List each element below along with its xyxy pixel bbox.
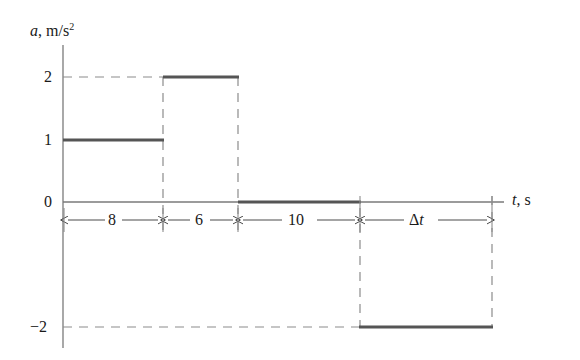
x-axis-units: , s bbox=[516, 191, 530, 208]
dimension-label-delta-t: Δt bbox=[409, 212, 424, 228]
acceleration-time-figure: a, m/s2 t, s 2 1 0 −2 8 6 10 Δt bbox=[0, 0, 580, 360]
y-axis-title: a, m/s2 bbox=[30, 22, 74, 39]
y-tick-label-2: 2 bbox=[44, 69, 52, 85]
y-axis-units: , m/s bbox=[38, 22, 69, 39]
dimension-label-10: 10 bbox=[288, 212, 304, 228]
delta-t-variable: t bbox=[419, 211, 423, 228]
x-axis-title: t, s bbox=[512, 192, 531, 208]
dimension-label-6: 6 bbox=[195, 212, 203, 228]
delta-symbol: Δ bbox=[409, 211, 419, 228]
y-tick-label-1: 1 bbox=[44, 132, 52, 148]
y-axis-exponent: 2 bbox=[69, 21, 74, 32]
y-axis-symbol: a bbox=[30, 22, 38, 39]
dimension-label-8: 8 bbox=[108, 212, 116, 228]
y-tick-label-0: 0 bbox=[44, 194, 52, 210]
axes-group bbox=[63, 45, 504, 348]
y-tick-label-minus-2: −2 bbox=[30, 319, 47, 335]
plot-canvas bbox=[0, 0, 580, 360]
